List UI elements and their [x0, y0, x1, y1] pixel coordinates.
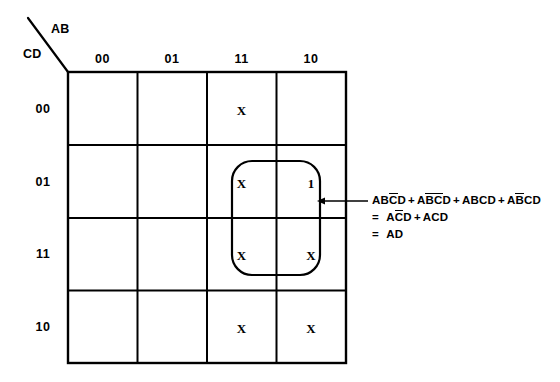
row-header-0: 00: [26, 102, 60, 116]
term-2-suffix: D: [443, 194, 452, 206]
term-2-bar2: C: [434, 193, 443, 206]
plus-sign-3: +: [496, 194, 507, 206]
equals-sign-3: =: [372, 228, 379, 240]
column-header-1: 01: [138, 52, 207, 66]
cell-r2-c2[interactable]: X: [207, 248, 276, 264]
expression-block: ABCD+ABCD+ABCD+ABCD = ACD+ACD = AD: [372, 192, 541, 243]
cell-r3-c3[interactable]: X: [277, 321, 346, 337]
line2-term-1-suffix: D: [403, 211, 412, 223]
equals-sign-2: =: [372, 211, 379, 223]
kmap-figure: AB CD 00 01 11 10 00 01 11 10 X X 1 X X …: [0, 0, 560, 382]
row-header-3: 10: [26, 320, 60, 334]
term-4-bar: B: [515, 193, 524, 206]
expression-line-2: = ACD+ACD: [372, 209, 541, 226]
final-result: AD: [386, 228, 403, 240]
column-header-3: 10: [277, 52, 346, 66]
column-header-0: 00: [68, 52, 137, 66]
term-4-prefix: A: [507, 194, 516, 206]
plus-sign-2: +: [451, 194, 462, 206]
term-1-bar: C: [389, 193, 398, 206]
term-2-prefix: A: [417, 194, 426, 206]
row-header-1: 01: [26, 175, 60, 189]
column-header-2: 11: [207, 52, 276, 66]
term-4-suffix: CD: [524, 194, 541, 206]
plus-sign-4: +: [412, 211, 423, 223]
plus-sign-1: +: [406, 194, 417, 206]
cell-r2-c3[interactable]: X: [277, 248, 346, 264]
cell-r3-c2[interactable]: X: [207, 321, 276, 337]
term-1-prefix: AB: [372, 194, 389, 206]
line2-term-1-prefix: A: [386, 211, 395, 223]
expression-line-1: ABCD+ABCD+ABCD+ABCD: [372, 192, 541, 209]
cell-r1-c3[interactable]: 1: [277, 176, 346, 192]
term-3-prefix: ABCD: [462, 194, 496, 206]
row-header-2: 11: [26, 247, 60, 261]
term-2-bar: B: [425, 193, 434, 206]
axis-label-cd: CD: [23, 47, 42, 61]
term-1-suffix: D: [398, 194, 407, 206]
cell-r1-c2[interactable]: X: [207, 176, 276, 192]
line2-term-2: ACD: [423, 211, 449, 223]
expression-line-3: = AD: [372, 226, 541, 243]
axis-label-ab: AB: [51, 22, 70, 36]
cell-r0-c2[interactable]: X: [207, 103, 276, 119]
